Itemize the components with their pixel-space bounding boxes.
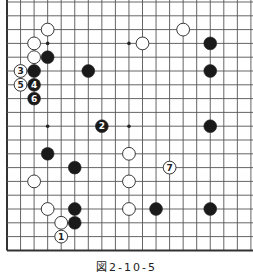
white-stone [28,37,41,50]
black-stone [41,147,54,160]
stone-move-number: 5 [17,80,23,90]
black-stone [82,65,95,78]
black-stone-6: 6 [28,92,41,105]
black-stone [204,65,217,78]
black-stone [204,120,217,133]
hoshi-dot [46,124,50,128]
hoshi-dot [127,42,131,46]
white-stone-7: 7 [163,161,176,174]
white-stone [123,147,136,160]
white-stone [41,23,54,36]
black-stone [68,216,81,229]
white-stone [28,175,41,188]
stone-move-number: 1 [58,232,64,242]
white-stone-1: 1 [55,230,68,243]
white-stone [55,216,68,229]
white-stone [177,23,190,36]
white-stone-5: 5 [14,78,27,91]
white-stone [136,37,149,50]
black-stone [41,51,54,64]
white-stone [41,203,54,216]
black-stone-2: 2 [95,120,108,133]
stone-move-number: 7 [166,163,172,173]
black-stone [68,203,81,216]
figure-caption: 図2-10-5 [0,258,253,274]
white-stone [123,203,136,216]
stone-move-number: 6 [31,94,37,104]
white-stone-3: 3 [14,65,27,78]
hoshi-dot [46,42,50,46]
stone-move-number: 4 [31,80,37,90]
hoshi-dot [127,124,131,128]
black-stone [150,203,163,216]
white-stone [28,51,41,64]
black-stone [204,37,217,50]
black-stone-4: 4 [28,78,41,91]
black-stone [204,203,217,216]
stone-move-number: 3 [17,66,23,76]
black-stone [68,161,81,174]
black-stone [28,65,41,78]
white-stone [123,175,136,188]
stone-move-number: 2 [99,121,105,131]
